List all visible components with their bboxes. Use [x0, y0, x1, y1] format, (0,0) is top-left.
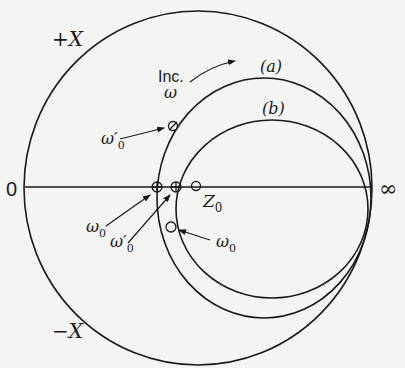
omega0-prime-bottom-label: ω′0 [110, 232, 134, 255]
omega0-axis-marker [152, 182, 162, 192]
impedance-diagram: +X −X 0 ∞ Inc. ω (a) (b) Z0 ω′0 ω0 ω′0 ω… [0, 0, 405, 368]
omega0-lower-pointer [179, 230, 210, 240]
omega0-prime-top-pointer [120, 128, 164, 139]
omega0-axis-pointer [106, 195, 150, 226]
curve-a-label: (a) [260, 57, 282, 76]
plus-x-label: +X [52, 27, 84, 51]
z0-label: Z0 [202, 191, 222, 215]
omega0-left-label: ω0 [86, 217, 106, 240]
omega-label: ω [164, 83, 177, 102]
omega0-prime-top-marker [169, 122, 178, 131]
infinity-label: ∞ [379, 176, 397, 201]
minus-x-label: −X [52, 319, 84, 343]
curve-b-label: (b) [262, 99, 285, 118]
omega0-right-label: ω0 [216, 232, 236, 255]
increasing-omega-arrow [190, 61, 235, 82]
omega0-prime-axis-marker [171, 182, 181, 192]
omega0-prime-axis-pointer [128, 195, 170, 243]
outer-circle [24, 11, 372, 365]
omega0-lower-marker [166, 222, 176, 232]
zero-label: 0 [6, 178, 17, 200]
z0-marker [192, 182, 201, 191]
omega0-prime-top-label: ω′0 [101, 129, 125, 152]
